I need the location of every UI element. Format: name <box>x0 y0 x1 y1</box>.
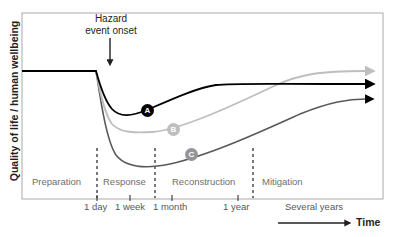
plot-frame <box>22 13 383 199</box>
tick-label-1day: 1 day <box>84 201 107 212</box>
phase-label-preparation: Preparation <box>32 176 81 187</box>
phase-label-reconstruction: Reconstruction <box>172 176 235 187</box>
tick-label-1week: 1 week <box>115 201 145 212</box>
curve-marker-a: A <box>141 104 154 117</box>
tick-label-1year: 1 year <box>223 201 249 212</box>
curve-marker-b: B <box>167 123 180 136</box>
hazard-onset-label-line2: event onset <box>85 25 137 36</box>
tick-label-several-years: Several years <box>285 201 343 212</box>
hazard-onset-label: Hazard event onset <box>68 13 154 37</box>
curve-b <box>22 71 366 132</box>
resilience-curve-figure: Quality of life / human wellbeing Hazard… <box>0 0 396 237</box>
phase-label-response: Response <box>103 176 146 187</box>
curve-marker-c: C <box>185 148 198 161</box>
x-axis-label: Time <box>356 216 380 228</box>
phase-label-mitigation: Mitigation <box>262 176 303 187</box>
y-axis-label: Quality of life / human wellbeing <box>8 11 20 191</box>
hazard-onset-label-line1: Hazard <box>95 13 127 24</box>
tick-label-1month: 1 month <box>153 201 187 212</box>
